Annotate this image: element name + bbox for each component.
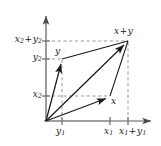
y-axis-label-x2-plus-y2: x2+y2 <box>2 35 42 45</box>
y-axis-label-x2-plus-y2-operator: + <box>24 34 33 44</box>
vector-x-arrow <box>46 99 106 122</box>
vector-sum-label: x+y <box>114 27 133 36</box>
vector-sum-label-operator: + <box>119 26 128 36</box>
y-axis-label-x2-sub: 2 <box>38 92 42 100</box>
x-axis-label-x1-plus-y1-sub2: 1 <box>142 129 146 137</box>
vector-sum-label-base2: y <box>128 26 133 36</box>
x-axis-label-x1-plus-y1: x1+y1 <box>119 127 146 137</box>
vector-addition-figure: x2+y2 y2 x2 y1 x1 x1+y1 x+y y x <box>0 0 161 146</box>
y-axis-label-y2: y2 <box>2 53 42 63</box>
vectors-group <box>46 45 124 121</box>
x-axis-label-y1: y1 <box>56 127 65 137</box>
vector-sum-arrow <box>46 45 124 121</box>
x-axis-label-x1-sub: 1 <box>109 129 113 137</box>
figure-canvas <box>0 0 161 146</box>
y-axis-label-x2-plus-y2-sub2: 2 <box>38 37 42 45</box>
vector-x-label: x <box>111 97 116 106</box>
vector-y-arrow <box>46 64 61 121</box>
vector-y-label: y <box>55 47 60 56</box>
x-axis-label-y1-sub: 1 <box>61 129 65 137</box>
x-axis-label-x1: x1 <box>104 127 113 137</box>
y-axis-label-x2: x2 <box>2 90 42 100</box>
y-axis-label-y2-sub: 2 <box>38 55 42 63</box>
x-axis-label-x1-plus-y1-operator: + <box>128 126 137 136</box>
